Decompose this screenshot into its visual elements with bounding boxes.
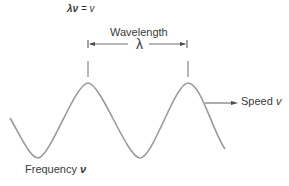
frequency-symbol: ν — [80, 163, 86, 175]
wave-curve — [10, 83, 225, 158]
wave-diagram — [0, 0, 289, 186]
arrowhead-right-icon — [180, 42, 186, 46]
speed-text: Speed — [241, 95, 273, 107]
frequency-text: Frequency — [25, 163, 77, 175]
frequency-label: Frequency ν — [25, 163, 86, 175]
speed-arrowhead-icon — [231, 101, 238, 105]
speed-label: Speed v — [241, 95, 281, 107]
speed-symbol: v — [276, 95, 282, 107]
arrowhead-left-icon — [89, 42, 95, 46]
